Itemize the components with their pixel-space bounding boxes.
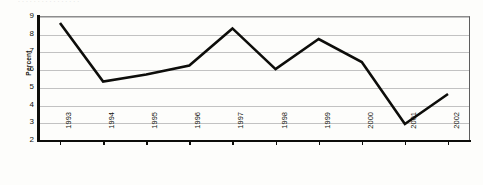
chart-screenshot: ................ Percent 98765432 199319… [0, 0, 483, 185]
data-series-line [0, 0, 483, 185]
